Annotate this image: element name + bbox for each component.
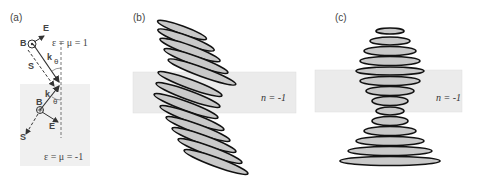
- wave-field-oblique: [130, 0, 300, 178]
- panel-c: (c) n = -1: [300, 0, 480, 178]
- wave-field-focusing: [300, 0, 480, 178]
- top-medium-label: ε = μ = 1: [52, 37, 88, 48]
- vector-S-bottom: S: [20, 132, 26, 142]
- vector-S-top: S: [28, 61, 34, 71]
- vector-E-top: E: [43, 23, 49, 33]
- slab-label-b: n = -1: [261, 92, 286, 103]
- panel-b: (b) n = -1: [130, 0, 300, 178]
- slab-label-c: n = -1: [436, 92, 461, 103]
- vector-B-bottom: B: [36, 97, 43, 107]
- vector-E-bottom: E: [49, 121, 55, 131]
- vector-k-top: k: [47, 52, 52, 62]
- panel-a: (a) B E k S θ ε = μ = 1: [0, 0, 110, 178]
- theta-bottom: θ: [53, 97, 57, 106]
- theta-top: θ: [54, 57, 58, 66]
- bottom-medium-label: ε = μ = -1: [44, 151, 83, 162]
- vector-B-top: B: [20, 38, 27, 48]
- vector-k-bottom: k: [45, 89, 50, 99]
